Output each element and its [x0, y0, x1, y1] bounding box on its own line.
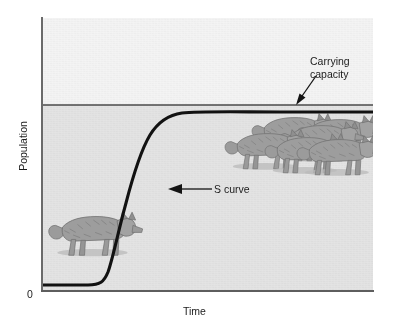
s-curve-arrow	[168, 184, 212, 194]
y-axis-label: Population	[17, 106, 29, 186]
carrying-capacity-arrow	[296, 76, 316, 105]
origin-label: 0	[27, 288, 33, 301]
wolf-icon-single	[49, 212, 143, 256]
wolf-pack-icon	[225, 114, 382, 176]
carrying-capacity-label: Carrying capacity	[310, 55, 350, 80]
x-axis-label: Time	[183, 305, 206, 318]
figure-container: Carrying capacity S curve Time 0 Populat…	[0, 0, 396, 328]
s-curve-label: S curve	[214, 183, 250, 196]
graphics-overlay	[0, 0, 396, 328]
